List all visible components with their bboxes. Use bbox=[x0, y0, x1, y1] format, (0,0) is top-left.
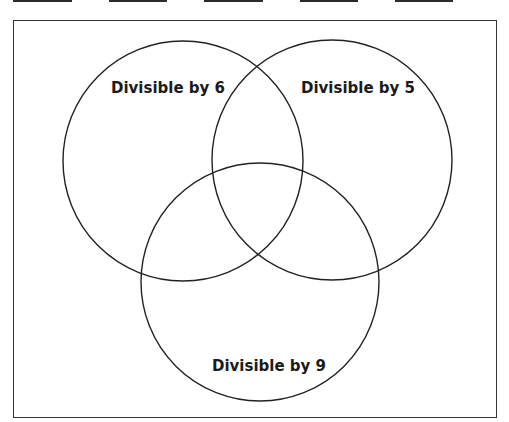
label-divisible-by-5: Divisible by 5 bbox=[301, 79, 415, 97]
circle-divisible-by-5 bbox=[212, 40, 452, 280]
label-divisible-by-6: Divisible by 6 bbox=[111, 79, 225, 97]
circle-divisible-by-6 bbox=[63, 41, 303, 281]
label-divisible-by-9: Divisible by 9 bbox=[212, 357, 326, 375]
